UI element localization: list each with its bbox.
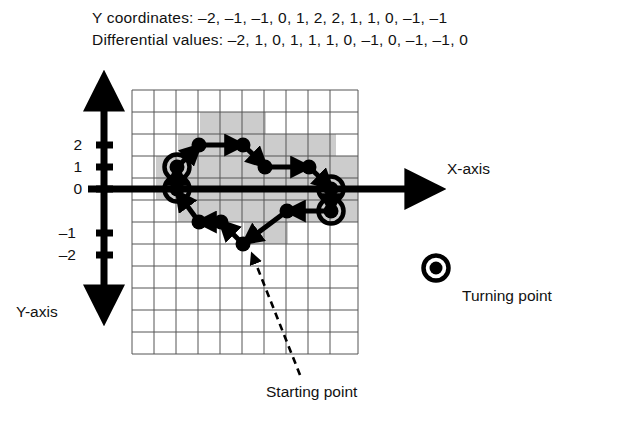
vertex <box>302 160 317 175</box>
y-axis <box>96 78 113 318</box>
vertex <box>214 215 229 230</box>
vertex <box>236 138 251 153</box>
diagram-svg <box>0 0 620 421</box>
vertex <box>258 160 273 175</box>
turning-point-legend-icon <box>424 256 449 281</box>
starting-point-label: Starting point <box>266 383 357 401</box>
y-tick-label-1: 1 <box>52 158 82 176</box>
vertex <box>192 138 207 153</box>
y-tick-label-minus2: –2 <box>46 246 76 264</box>
y-axis-label: Y-axis <box>16 303 58 321</box>
vertex <box>192 215 207 230</box>
y-tick-label-minus1: –1 <box>46 224 76 242</box>
starting-point-leader <box>252 254 300 375</box>
figure-canvas: Y coordinates: –2, –1, –1, 0, 1, 2, 2, 1… <box>0 0 620 421</box>
vertex <box>280 204 295 219</box>
y-tick-label-0: 0 <box>52 180 82 198</box>
vertex-start <box>236 237 251 252</box>
x-axis-label: X-axis <box>447 160 490 178</box>
y-tick-label-2: 2 <box>52 136 82 154</box>
turning-point-legend-label: Turning point <box>462 287 552 305</box>
